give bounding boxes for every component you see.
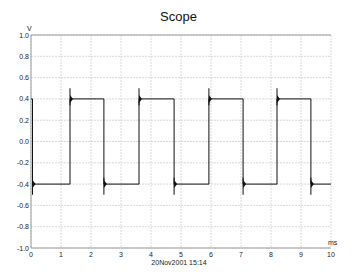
x-tick-label: 0 [29,251,33,258]
y-tick-label: 0.0 [19,138,29,145]
y-tick-label: 1.0 [19,32,29,39]
x-tick-label: 4 [149,251,153,258]
x-axis-unit: ms [328,239,338,246]
y-tick-label: -1.0 [17,245,29,252]
x-tick-label: 6 [209,251,213,258]
y-tick-label: -0.4 [17,181,29,188]
x-tick-label: 2 [89,251,93,258]
x-tick-label: 8 [269,251,273,258]
x-tick-label: 7 [239,251,243,258]
x-axis-ticks: 012345678910 [29,251,335,258]
grid-lines [31,35,331,248]
y-axis-ticks: 1.00.80.60.40.20.0-0.2-0.4-0.6-0.8-1.0 [17,32,29,252]
x-tick-label: 5 [179,251,183,258]
y-tick-label: -0.8 [17,223,29,230]
y-tick-label: 0.4 [19,95,29,102]
x-tick-label: 3 [119,251,123,258]
y-tick-label: 0.6 [19,74,29,81]
y-tick-label: -0.6 [17,202,29,209]
y-tick-label: -0.2 [17,159,29,166]
x-tick-label: 9 [299,251,303,258]
timestamp: 20Nov2001 15:14 [151,259,206,266]
y-axis-unit: V [27,25,32,32]
x-tick-label: 10 [327,251,335,258]
y-tick-label: 0.8 [19,53,29,60]
scope-chart: 1.00.80.60.40.20.0-0.2-0.4-0.6-0.8-1.0 0… [0,0,357,278]
y-tick-label: 0.2 [19,117,29,124]
x-tick-label: 1 [59,251,63,258]
